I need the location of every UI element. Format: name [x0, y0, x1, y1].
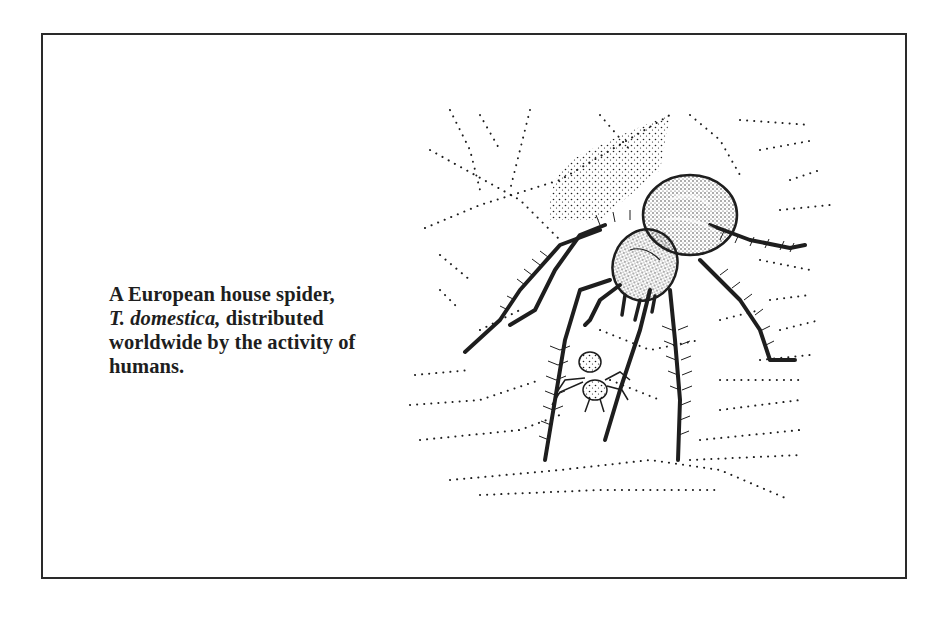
caption-line-2: T. domestica, distributed — [109, 306, 429, 330]
figure-caption: A European house spider, T. domestica, d… — [109, 282, 429, 378]
caption-line-4: humans. — [109, 354, 429, 378]
species-name: T. domestica, — [109, 307, 221, 329]
spiderling-icon — [552, 352, 630, 412]
spider-illustration — [405, 95, 835, 515]
caption-line-2-rest: distributed — [221, 307, 324, 329]
caption-line-3: worldwide by the activity of — [109, 330, 429, 354]
caption-line-1: A European house spider, — [109, 282, 429, 306]
